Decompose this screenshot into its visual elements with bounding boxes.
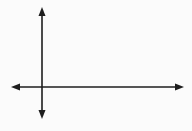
- coordinate-axes-diagram: [0, 0, 192, 131]
- x-axis: [11, 84, 184, 91]
- x-axis-left-arrowhead: [11, 84, 20, 91]
- x-axis-right-arrowhead: [175, 84, 184, 91]
- y-axis-down-arrowhead: [39, 110, 46, 119]
- y-axis: [39, 7, 46, 119]
- y-axis-up-arrowhead: [39, 7, 46, 16]
